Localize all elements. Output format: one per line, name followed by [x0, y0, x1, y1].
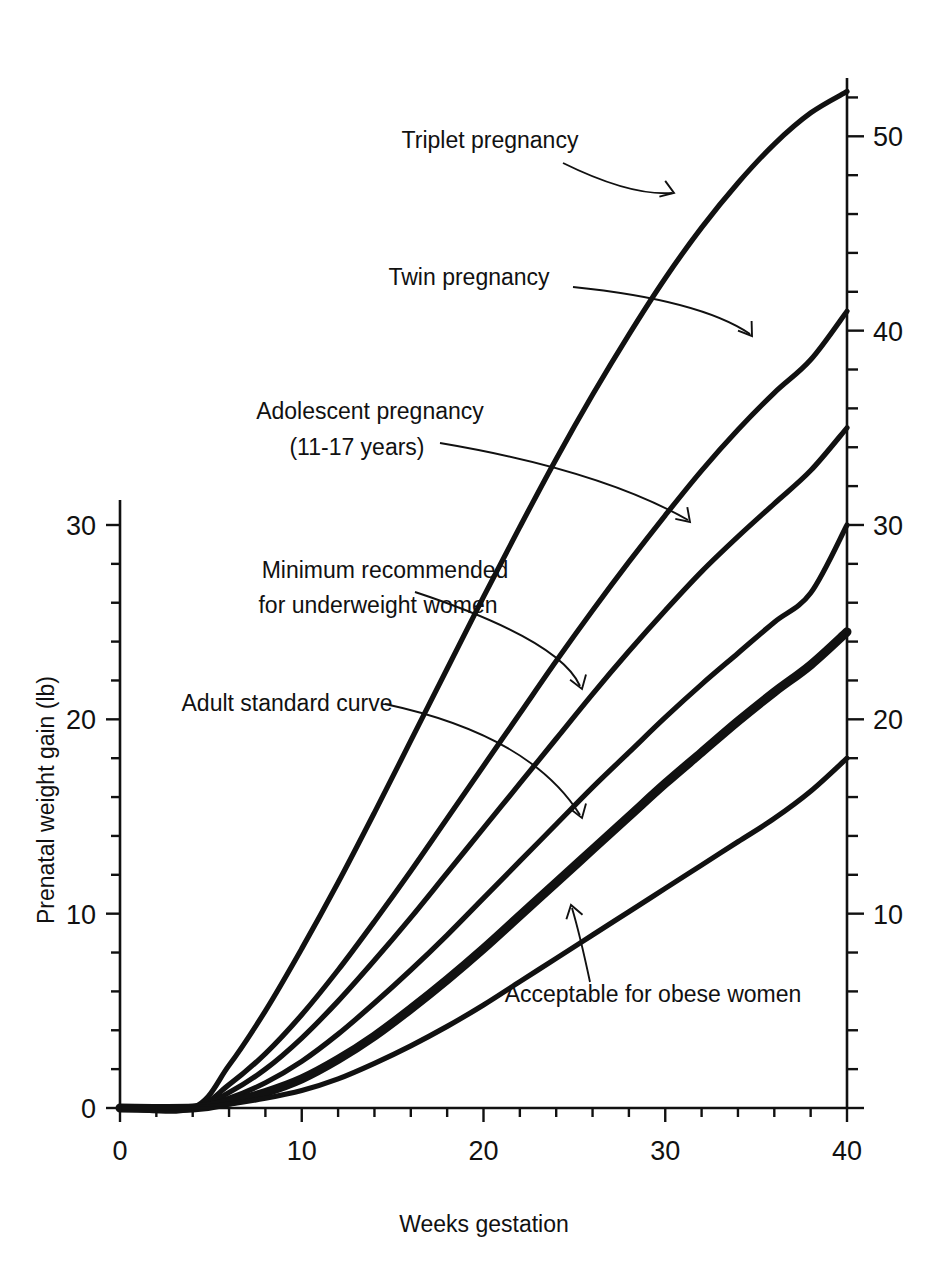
- y-left-tick-label-10: 10: [66, 900, 96, 930]
- chart-background: [0, 0, 929, 1288]
- y-left-tick-label-20: 20: [66, 705, 96, 735]
- y-right-tick-label-10: 10: [873, 900, 903, 930]
- y-left-tick-label-30: 30: [66, 511, 96, 541]
- annotation-adolescent-line2: (11-17 years): [289, 434, 424, 460]
- x-tick-label-20: 20: [468, 1136, 498, 1166]
- y-right-tick-label-30: 30: [873, 511, 903, 541]
- annotation-minimum-line2: for underweight women: [258, 592, 497, 618]
- annotation-adolescent-line1: Adolescent pregnancy: [256, 398, 484, 424]
- y-right-tick-label-50: 50: [873, 122, 903, 152]
- x-tick-label-0: 0: [112, 1136, 127, 1166]
- annotation-twin: Twin pregnancy: [388, 264, 550, 290]
- x-tick-label-10: 10: [287, 1136, 317, 1166]
- x-axis-title: Weeks gestation: [399, 1211, 569, 1237]
- x-tick-label-40: 40: [832, 1136, 862, 1166]
- prenatal-weight-gain-chart: 01020304001020301020304050 Weeks gestati…: [0, 0, 929, 1288]
- y-right-tick-label-40: 40: [873, 317, 903, 347]
- annotation-obese: Acceptable for obese women: [505, 981, 802, 1007]
- x-tick-label-30: 30: [650, 1136, 680, 1166]
- annotation-minimum-line1: Minimum recommended: [262, 557, 509, 583]
- chart-figure: 01020304001020301020304050 Weeks gestati…: [0, 0, 929, 1288]
- y-left-tick-label-0: 0: [81, 1094, 96, 1124]
- y-axis-title: Prenatal weight gain (lb): [33, 676, 59, 924]
- annotation-triplet: Triplet pregnancy: [402, 127, 579, 153]
- annotation-adult: Adult standard curve: [182, 690, 393, 716]
- y-right-tick-label-20: 20: [873, 705, 903, 735]
